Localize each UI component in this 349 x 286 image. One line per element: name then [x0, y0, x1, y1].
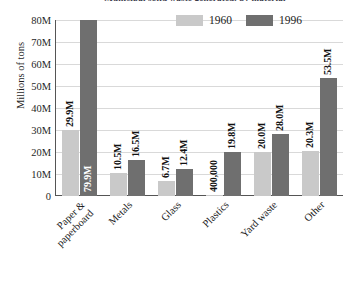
x-axis-label-cell: Paper &paperboard: [55, 197, 103, 285]
bar-rect: [62, 130, 79, 196]
bar-group: 29.9M79.9M: [55, 20, 103, 196]
bar-group: 20.0M28.0M: [247, 20, 295, 196]
bar-value-label: 12.4M: [178, 139, 189, 165]
bar-value-label: 19.8M: [226, 123, 237, 149]
y-axis-tick-label: 60M: [5, 59, 51, 70]
bar-rect: [302, 151, 319, 196]
legend-swatch-icon: [176, 15, 203, 26]
x-axis-label-cell: Yard waste: [247, 197, 295, 285]
legend-label: 1996: [279, 14, 302, 26]
bar-1996-glass[interactable]: 12.4M: [176, 20, 193, 196]
bar-1960-other[interactable]: 20.3M: [302, 20, 319, 196]
bar-group: 6.7M12.4M: [151, 20, 199, 196]
bar-value-label: 16.5M: [130, 130, 141, 156]
bar-rect: [206, 195, 223, 197]
bar-rect: [224, 152, 241, 196]
legend-item-1960[interactable]: 1960: [176, 14, 232, 26]
bar-group: 20.3M53.5M: [295, 20, 343, 196]
bar-value-label: 20.0M: [256, 123, 267, 149]
x-axis-category-label: Glass: [158, 199, 183, 224]
bar-group: 400,00019.8M: [199, 20, 247, 196]
bar-1996-other[interactable]: 53.5M: [320, 20, 337, 196]
x-axis-label-cell: Glass: [151, 197, 199, 285]
bar-rect: [272, 134, 289, 196]
x-axis-label-cell: Other: [295, 197, 343, 285]
y-axis-tick-label: 50M: [5, 81, 51, 92]
bar-rect: [110, 173, 127, 196]
bar-value-label: 28.0M: [274, 105, 285, 131]
bar-1960-yard-waste[interactable]: 20.0M: [254, 20, 271, 196]
bar-1996-yard-waste[interactable]: 28.0M: [272, 20, 289, 196]
bar-value-label: 20.3M: [304, 122, 315, 148]
bar-rect: [320, 78, 337, 196]
bar-1960-paper-paperboard[interactable]: 29.9M: [62, 20, 79, 196]
bar-value-label: 79.9M: [82, 165, 93, 191]
bar-rect: [176, 169, 193, 196]
legend-swatch-icon: [246, 15, 273, 26]
bar-value-label: 6.7M: [160, 157, 171, 179]
bar-1960-plastics[interactable]: 400,000: [206, 20, 223, 196]
x-axis-label-cell: Plastics: [199, 197, 247, 285]
y-axis-tick-label: 20M: [5, 147, 51, 158]
bar-1996-paper-paperboard[interactable]: 79.9M: [80, 20, 97, 196]
y-axis-tick-label: 10M: [5, 169, 51, 180]
bar-1960-glass[interactable]: 6.7M: [158, 20, 175, 196]
legend-label: 1960: [209, 14, 232, 26]
x-axis-category-label: Paper &paperboard: [46, 199, 96, 249]
x-axis-label-cell: Metals: [103, 197, 151, 285]
x-axis-category-label: Plastics: [200, 199, 231, 230]
bar-1996-metals[interactable]: 16.5M: [128, 20, 145, 196]
bar-rect: [158, 181, 175, 196]
legend-item-1996[interactable]: 1996: [246, 14, 302, 26]
x-axis-labels: Paper &paperboardMetalsGlassPlasticsYard…: [55, 197, 343, 285]
y-axis-tick-label: 40M: [5, 103, 51, 114]
bar-groups: 29.9M79.9M10.5M16.5M6.7M12.4M400,00019.8…: [55, 20, 343, 196]
y-axis-tick-label: 30M: [5, 125, 51, 136]
x-axis-category-label: Other: [302, 199, 327, 224]
bar-rect: [254, 152, 271, 196]
bar-group: 10.5M16.5M: [103, 20, 151, 196]
bar-value-label: 29.9M: [64, 101, 75, 127]
chart-title: Municipal solid waste generated, by mate…: [95, 0, 295, 1]
bar-value-label: 10.5M: [112, 143, 123, 169]
y-axis-tick-label: 80M: [5, 15, 51, 26]
bar-rect: [128, 160, 145, 196]
bar-1960-metals[interactable]: 10.5M: [110, 20, 127, 196]
y-axis-tick-label: 0: [5, 191, 51, 202]
x-axis-category-label: Metals: [107, 199, 136, 228]
bar-value-label: 53.5M: [322, 49, 333, 75]
bar-value-label: 400,000: [208, 160, 219, 192]
bar-chart: Municipal solid waste generated, by mate…: [0, 0, 349, 286]
bar-1996-plastics[interactable]: 19.8M: [224, 20, 241, 196]
y-axis-tick-label: 70M: [5, 37, 51, 48]
chart-legend: 19601996: [176, 14, 302, 26]
